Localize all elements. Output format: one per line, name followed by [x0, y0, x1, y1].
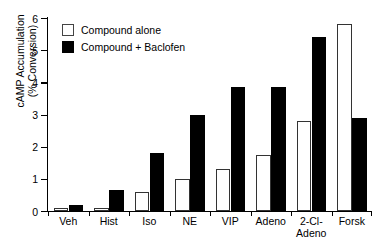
legend-swatch: [62, 24, 74, 36]
x-axis-label: VIP: [210, 216, 251, 228]
chart-legend: Compound aloneCompound + Baclofen: [62, 23, 185, 54]
legend-swatch: [62, 41, 74, 53]
y-tick-label: 1: [32, 173, 38, 185]
y-tick: 2: [41, 147, 48, 148]
bar-group: [332, 18, 373, 211]
legend-label: Compound + Baclofen: [81, 41, 185, 53]
y-tick: 3: [41, 115, 48, 116]
x-axis-labels: VehHistIsoNEVIPAdeno2-Cl-AdenoForsk: [48, 216, 372, 250]
bar: [216, 169, 231, 211]
y-tick: 0: [41, 211, 48, 212]
x-axis-label: Hist: [89, 216, 130, 228]
bar: [135, 192, 150, 211]
y-tick: 6: [41, 18, 48, 19]
bar-chart-figure: cAMP Accumulation (% Conversion) 0123456…: [0, 0, 382, 250]
legend-item: Compound alone: [62, 23, 185, 37]
x-axis-label-line: Adeno: [291, 228, 332, 240]
x-axis-label-line: 2-Cl-: [291, 216, 332, 228]
x-axis-label-line: NE: [170, 216, 211, 228]
x-axis-label: NE: [170, 216, 211, 228]
x-axis-label: 2-Cl-Adeno: [291, 216, 332, 239]
x-axis-label-line: Adeno: [251, 216, 292, 228]
legend-label: Compound alone: [81, 24, 161, 36]
bar: [109, 190, 124, 211]
bar: [190, 115, 205, 212]
bar: [312, 37, 327, 211]
bar-group: [291, 18, 332, 211]
y-tick: 4: [41, 82, 48, 83]
y-tick-label: 6: [32, 13, 38, 25]
y-tick-label: 2: [32, 141, 38, 153]
y-tick-label: 3: [32, 109, 38, 121]
y-axis-title-line-1: cAMP Accumulation: [14, 14, 26, 107]
x-axis-label: Forsk: [332, 216, 373, 228]
bar: [337, 24, 352, 211]
x-axis-label-line: Veh: [48, 216, 89, 228]
x-axis-label-line: Iso: [129, 216, 170, 228]
y-tick-label: 5: [32, 45, 38, 57]
bar: [297, 121, 312, 211]
y-tick-label: 4: [32, 77, 38, 89]
bar-group: [210, 18, 251, 211]
bar: [271, 87, 286, 211]
x-axis-label-line: VIP: [210, 216, 251, 228]
x-axis-label: Adeno: [251, 216, 292, 228]
y-tick-label: 0: [32, 206, 38, 218]
x-axis-label-line: Hist: [89, 216, 130, 228]
y-tick: 5: [41, 50, 48, 51]
legend-item: Compound + Baclofen: [62, 40, 185, 54]
x-axis-label-line: Forsk: [332, 216, 373, 228]
bar: [352, 118, 367, 211]
bar: [175, 179, 190, 211]
bar-group: [251, 18, 292, 211]
x-axis-label: Veh: [48, 216, 89, 228]
y-tick: 1: [41, 179, 48, 180]
bar: [256, 155, 271, 211]
bar: [150, 153, 165, 211]
x-axis-label: Iso: [129, 216, 170, 228]
bar: [231, 87, 246, 211]
